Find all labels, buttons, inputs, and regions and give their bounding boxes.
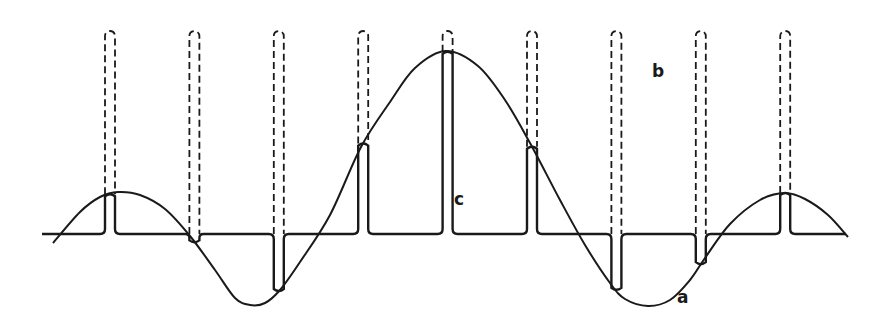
dashed-pulse-7 [611, 31, 621, 234]
dashed-pulse-2 [189, 31, 199, 234]
dashed-pulse-6 [527, 31, 537, 147]
dashed-pulse-8 [696, 31, 706, 234]
dashed-pulse-3 [274, 31, 284, 234]
label-b: b [652, 61, 664, 81]
dashed-pulse-9 [780, 31, 790, 193]
label-c: c [454, 189, 464, 209]
label-a: a [677, 287, 688, 307]
baseline [42, 52, 846, 291]
dashed-pulse-5 [443, 31, 453, 52]
waveform-curve-a [53, 51, 848, 306]
dashed-pulse-4 [358, 31, 368, 144]
sampling-diagram: b c a [0, 0, 877, 323]
dashed-pulse-1 [105, 31, 115, 194]
dashed-pulse-train [105, 31, 790, 234]
